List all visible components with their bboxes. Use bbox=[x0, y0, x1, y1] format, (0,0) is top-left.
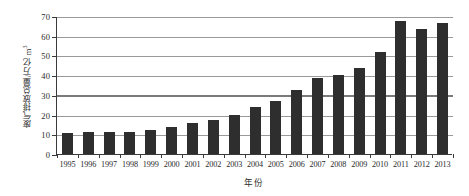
y-axis-tick-label: 10 bbox=[41, 130, 50, 140]
y-axis-tick-label: 30 bbox=[41, 91, 50, 101]
y-axis-tick-label: 0 bbox=[46, 150, 50, 160]
x-axis-tick bbox=[370, 154, 371, 158]
y-axis-title: 废气排放总量/万亿 m3 bbox=[21, 17, 35, 155]
x-axis-tick bbox=[57, 154, 58, 158]
x-axis-tick bbox=[140, 154, 141, 158]
x-axis-tick-label: 2002 bbox=[205, 160, 221, 169]
x-axis-tick bbox=[390, 154, 391, 158]
y-axis-title-main: 废气排放总量/万亿 m bbox=[23, 48, 32, 127]
bar bbox=[104, 132, 115, 154]
x-axis-tick-label: 1997 bbox=[101, 160, 117, 169]
bar bbox=[395, 21, 406, 154]
x-axis-tick-label: 2007 bbox=[310, 160, 326, 169]
x-axis-tick-label: 2004 bbox=[247, 160, 263, 169]
x-axis-tick bbox=[203, 154, 204, 158]
x-axis-tick bbox=[224, 154, 225, 158]
x-axis-tick-label: 1999 bbox=[143, 160, 159, 169]
x-axis-tick bbox=[265, 154, 266, 158]
bar bbox=[333, 75, 344, 154]
y-axis-tick-label: 70 bbox=[41, 12, 50, 22]
bar bbox=[124, 132, 135, 154]
bar bbox=[145, 130, 156, 154]
x-axis-tick-label: 2000 bbox=[164, 160, 180, 169]
bar bbox=[270, 101, 281, 154]
bar bbox=[416, 29, 427, 154]
x-axis-tick bbox=[182, 154, 183, 158]
y-axis-title-text: 废气排放总量/万亿 m3 bbox=[22, 45, 35, 128]
x-axis-tick bbox=[245, 154, 246, 158]
y-axis-tick-label: 50 bbox=[41, 51, 50, 61]
bar bbox=[312, 78, 323, 154]
x-axis-tick-label: 2011 bbox=[393, 160, 409, 169]
x-axis-tick bbox=[349, 154, 350, 158]
x-axis-tick-label: 1998 bbox=[122, 160, 138, 169]
x-axis-tick-label: 2010 bbox=[372, 160, 388, 169]
x-axis-tick-label: 2009 bbox=[351, 160, 367, 169]
y-axis-title-superscript: 3 bbox=[22, 45, 28, 48]
x-axis-tick bbox=[99, 154, 100, 158]
x-axis-title: 年份 bbox=[56, 176, 452, 188]
x-axis-tick bbox=[120, 154, 121, 158]
x-axis-tick bbox=[453, 154, 454, 158]
x-axis-tick-label: 2006 bbox=[289, 160, 305, 169]
x-axis-tick-label: 2012 bbox=[414, 160, 430, 169]
bar bbox=[354, 68, 365, 154]
bars-group bbox=[57, 16, 453, 154]
x-axis-tick bbox=[307, 154, 308, 158]
chart-figure: 废气排放总量/万亿 m3 010203040506070 19951996199… bbox=[0, 0, 469, 196]
y-axis-tick-label: 20 bbox=[41, 111, 50, 121]
x-axis-tick-label: 2001 bbox=[184, 160, 200, 169]
bar bbox=[291, 90, 302, 154]
x-axis-tick bbox=[161, 154, 162, 158]
x-axis-tick-label: 2013 bbox=[435, 160, 451, 169]
x-axis-tick bbox=[411, 154, 412, 158]
x-axis-tick-label: 2003 bbox=[226, 160, 242, 169]
bar bbox=[166, 127, 177, 154]
bar bbox=[375, 52, 386, 154]
x-axis-tick-label: 2008 bbox=[330, 160, 346, 169]
x-axis-tick-label: 1995 bbox=[59, 160, 75, 169]
x-axis-tick-label: 2005 bbox=[268, 160, 284, 169]
bar bbox=[83, 132, 94, 154]
bar bbox=[437, 23, 448, 154]
bar bbox=[208, 120, 219, 155]
x-axis-tick bbox=[286, 154, 287, 158]
x-axis-tick bbox=[78, 154, 79, 158]
bar bbox=[250, 107, 261, 154]
plot-area: 010203040506070 199519961997199819992000… bbox=[56, 17, 452, 155]
x-axis-tick-label: 1996 bbox=[80, 160, 96, 169]
bar bbox=[229, 115, 240, 154]
y-axis-tick-label: 60 bbox=[41, 32, 50, 42]
x-axis-tick bbox=[328, 154, 329, 158]
x-axis-tick bbox=[432, 154, 433, 158]
y-axis-tick-label: 40 bbox=[41, 71, 50, 81]
bar bbox=[187, 123, 198, 154]
bar bbox=[62, 133, 73, 154]
